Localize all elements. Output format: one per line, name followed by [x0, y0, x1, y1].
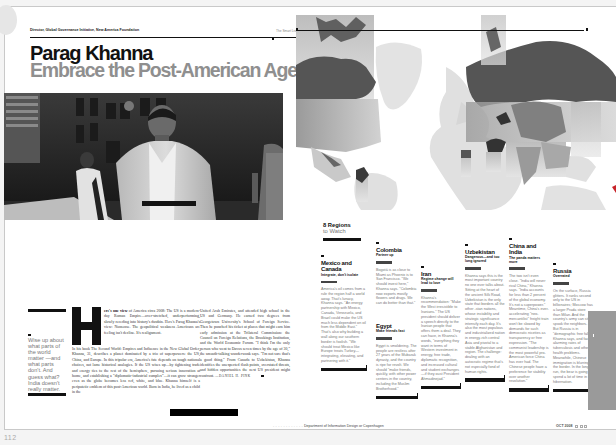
region-china-india: China and India The panda matters more T…	[509, 238, 549, 392]
region-text: Egypt is smoldering. The people are rest…	[376, 344, 418, 392]
footer-credit-text: Department of Information Design or Cope…	[304, 424, 384, 428]
grey-tab-block	[588, 311, 616, 410]
region-end-bar	[321, 368, 367, 372]
pull-quote-bottom-bar	[28, 393, 66, 396]
region-text: America's oil comes from a rule the regi…	[321, 287, 367, 364]
dropcap-h	[72, 307, 101, 345]
region-bullet	[509, 238, 512, 240]
section-title-bar	[323, 238, 361, 241]
pull-quote-top-bar	[28, 309, 66, 312]
region-text: Khanna's recommendation: "Make the West …	[421, 296, 461, 382]
region-bar	[376, 337, 392, 340]
byline: —DANIEL H. PINK	[215, 374, 251, 378]
region-bar	[321, 281, 337, 284]
region-name: Mexico and Canada	[321, 260, 367, 273]
world-map-graphic	[296, 7, 616, 210]
headline: Embrace the Post-American Age	[30, 61, 297, 81]
region-russia: Russia Overrated On the surface, Russia …	[553, 263, 593, 392]
page-number: 112	[4, 434, 17, 441]
footer-dashes: - - - - - - - - - - - -	[273, 424, 303, 428]
region-uzbekistan: Uzbekistan Dangerous—and too long ignore…	[465, 244, 505, 382]
body-column-1: In his book The Second World: Empires an…	[72, 347, 200, 396]
bottom-bar	[170, 409, 238, 416]
region-text: Khanna says this is the most important c…	[465, 274, 505, 375]
region-bullet	[421, 266, 424, 268]
region-bar	[421, 289, 437, 292]
region-subtitle: Overrated	[553, 275, 593, 279]
rule-tick	[586, 28, 588, 31]
region-subtitle: Partner up	[376, 254, 418, 258]
region-name: China and India	[509, 243, 549, 256]
world-map	[296, 7, 616, 210]
region-bar	[376, 261, 392, 264]
pull-quote-bullet	[28, 334, 31, 336]
photo-image	[4, 93, 283, 220]
issue-date: OCT 2008	[556, 424, 573, 428]
region-bar	[553, 282, 569, 285]
grey-tab-tick	[593, 334, 594, 337]
region-end-bar	[465, 378, 505, 382]
body-column-2: United Arab Emirates, and attended high …	[200, 309, 290, 379]
page-curl	[0, 5, 17, 35]
region-subtitle: Make friends fast	[376, 330, 418, 334]
region-bullet	[553, 263, 556, 265]
region-bullet	[465, 244, 468, 246]
rule-tick	[296, 28, 298, 31]
region-end-bar	[509, 388, 549, 392]
region-subtitle: Integrate, don't isolate	[321, 274, 367, 278]
region-bar	[509, 267, 525, 270]
region-text: On the surface, Russia glitters. It rank…	[553, 289, 593, 385]
kicker: Director, Global Governance Initiative, …	[30, 28, 139, 32]
region-subtitle: The panda matters more	[509, 257, 549, 265]
pull-quote: Wise up about what parts of the world ma…	[28, 337, 66, 392]
portrait-photo	[4, 93, 283, 220]
region-text: The two isn't even close. "India will ne…	[509, 274, 549, 384]
body-column-1-top: ere's one view of America circa 2008: Th…	[104, 309, 200, 336]
section-title-sub: to Watch	[323, 228, 351, 234]
footer-credit: - - - - - - - - - - - - Department of In…	[273, 424, 384, 428]
body-text: United Arab Emirates, and attended high …	[200, 309, 290, 378]
region-egypt: Egypt Make friends fast Egypt is smolder…	[376, 323, 418, 399]
section-tag: The Smart List	[276, 29, 297, 33]
end-mark	[261, 375, 264, 377]
region-end-bar	[376, 396, 418, 400]
footer-box	[575, 425, 578, 428]
region-subtitle: Dangerous—and too long ignored	[465, 256, 505, 264]
region-subtitle: Regime change will lead to love	[421, 278, 461, 286]
region-end-bar	[421, 386, 461, 390]
kicker-rule: Director, Global Governance Initiative, …	[30, 28, 300, 38]
footer-box	[584, 425, 587, 428]
map-rule	[296, 30, 584, 31]
region-mexico-canada: Mexico and Canada Integrate, don't isola…	[321, 255, 367, 371]
region-bullet	[321, 255, 324, 257]
rule-tick	[272, 37, 274, 40]
region-end-bar	[553, 389, 593, 393]
region-colombia: Colombia Partner up Bogotá is as close t…	[376, 242, 418, 306]
region-text: Bogotá is as close to Miami as Phoenix i…	[376, 268, 418, 306]
section-title: 8 Regions to Watch	[323, 222, 351, 234]
region-iran: Iran Regime change will lead to love Kha…	[421, 266, 461, 389]
lead-in: ere's one view	[104, 309, 128, 313]
region-bar	[465, 267, 481, 270]
pull-quote-block: Wise up about what parts of the world ma…	[28, 309, 66, 396]
footer-issue: OCT 2008	[556, 424, 587, 428]
region-bullet	[376, 242, 379, 244]
footer-box	[580, 425, 583, 428]
